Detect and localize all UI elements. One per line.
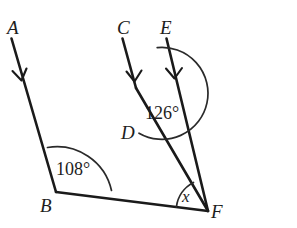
point-label-e: E: [160, 18, 172, 37]
point-label-d: D: [121, 123, 135, 142]
ray-fe: [167, 39, 209, 212]
point-label-c: C: [117, 18, 130, 37]
point-label-f: F: [211, 202, 223, 221]
point-label-b: B: [40, 196, 52, 215]
ray-ba: [12, 39, 57, 193]
geometry-figure: A B C D E F 108° 126° x: [0, 0, 297, 228]
angle-label-d: 126°: [145, 104, 179, 122]
angle-arc-d: [139, 47, 208, 139]
point-label-a: A: [7, 18, 19, 37]
angle-label-f: x: [182, 188, 190, 205]
angle-label-b: 108°: [56, 160, 90, 178]
